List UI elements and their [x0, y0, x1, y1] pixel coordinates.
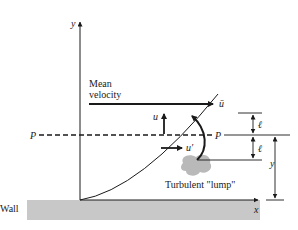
wall-surface — [27, 200, 260, 220]
turbulent-lump-blob — [181, 155, 211, 176]
p-label-left: P — [29, 130, 36, 141]
mean-velocity-label-2: velocity — [89, 89, 121, 100]
u-bar-label: ū — [219, 98, 224, 109]
u-label: u — [153, 111, 158, 122]
p-label-right: P — [214, 130, 221, 141]
mixing-length-diagram: Wall x y Mean velocity ū P P u u′ Turbul… — [0, 0, 298, 230]
y-dimension-label: y — [269, 158, 275, 169]
y-axis-label: y — [70, 18, 76, 29]
wall-label: Wall — [0, 203, 19, 214]
ell-top-label: ℓ — [258, 119, 262, 130]
x-axis-label: x — [253, 204, 259, 215]
mean-velocity-label-1: Mean — [89, 78, 112, 89]
ell-bottom-label: ℓ — [258, 143, 262, 154]
u-prime-label: u′ — [186, 142, 194, 153]
turbulent-lump-label: Turbulent "lump" — [165, 179, 235, 190]
